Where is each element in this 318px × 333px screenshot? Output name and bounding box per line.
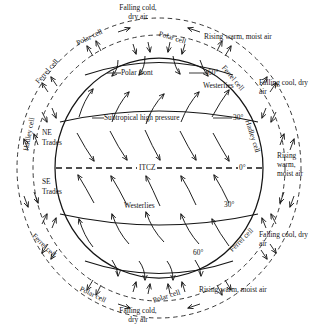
latitude-60-south-label: 60° bbox=[193, 249, 203, 258]
bottom-falling-air-line2: dry air bbox=[96, 316, 180, 325]
top-rising-air-label: Rising warm, moist air bbox=[204, 33, 272, 42]
subtropical-high-pressure-label: Subtropical high pressure bbox=[104, 114, 180, 123]
right-rising-air-line3: moist air bbox=[277, 170, 303, 179]
right-upper-falling-air-line2: air bbox=[259, 88, 267, 97]
right-lower-falling-air-line2: air bbox=[259, 240, 267, 249]
se-trades-label-line2: Trades bbox=[42, 188, 62, 197]
top-falling-air-line2: dry air bbox=[96, 13, 180, 22]
ne-trades-label-line1: NE bbox=[42, 129, 52, 138]
latitude-30-north-label: 30° bbox=[233, 114, 243, 123]
polar-front-label: Polar front bbox=[121, 69, 153, 78]
latitude-60-north-label: 60° bbox=[208, 69, 218, 78]
ne-trades-label-line2: Trades bbox=[42, 139, 62, 148]
diagram-canvas bbox=[0, 0, 318, 333]
westerlies-south-label: Westerlies bbox=[124, 202, 155, 211]
bottom-rising-air-label: Rising warm, moist air bbox=[199, 286, 267, 295]
westerlies-north-label: Westerlies bbox=[203, 82, 234, 91]
se-trades-label-line1: SE bbox=[42, 178, 51, 187]
latitude-0-equator-label: 0° bbox=[238, 164, 247, 173]
circulation-diagram: Falling cold, dry air Rising warm, moist… bbox=[0, 0, 318, 333]
latitude-30-south-label: 30° bbox=[224, 201, 234, 210]
itcz-label: ITCZ bbox=[137, 164, 157, 173]
